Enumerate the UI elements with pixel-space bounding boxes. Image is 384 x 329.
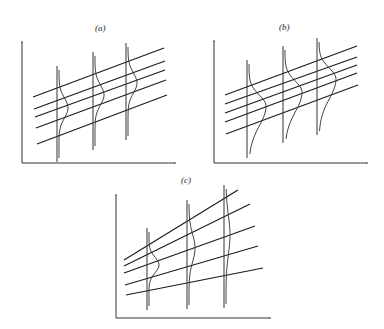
regression-line [34,61,165,109]
panel-c [115,185,271,319]
regression-line [124,190,238,260]
panel-b-label: (b) [279,22,290,32]
x-axis-tip [366,162,368,164]
y-axis-tip [115,194,117,196]
panel-a [21,41,176,164]
regression-line [35,70,165,117]
y-axis-tip [213,40,215,42]
density-curve [226,189,230,304]
regression-line [226,85,358,134]
density-curve [95,56,104,146]
regression-line [225,46,357,95]
panel-a-label: (a) [95,23,106,33]
regression-figure: (a) (b) (c) [0,0,384,329]
x-axis-tip [269,317,271,319]
density-curve [249,64,266,154]
density-curve [59,70,68,158]
panel-c-label: (c) [181,175,191,185]
y-axis-tip [21,41,23,43]
x-axis-tip [174,162,176,164]
regression-line [225,65,357,113]
panel-b [213,38,368,164]
density-curve [189,204,195,305]
regression-line [33,48,164,97]
